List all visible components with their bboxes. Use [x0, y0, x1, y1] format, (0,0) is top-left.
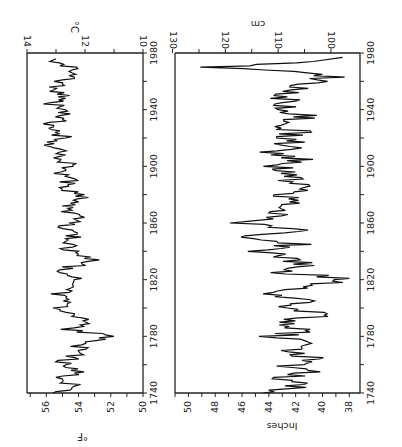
fahrenheit-unit-label: °F	[77, 431, 88, 442]
inches-label: 42	[290, 401, 301, 413]
inches-label: 44	[263, 401, 274, 413]
year-label: 1820	[365, 268, 376, 292]
bottom-chart-ticks	[173, 49, 364, 397]
cm-label: 110	[273, 31, 284, 49]
fahrenheit-label: 50	[137, 401, 148, 413]
year-label: 1860	[365, 211, 376, 235]
celsius-label: 10	[138, 35, 149, 47]
inches-label: 48	[209, 401, 220, 413]
cm-label: 100	[326, 31, 337, 49]
cm-label: 120	[220, 31, 231, 49]
fahrenheit-label: 56	[40, 401, 51, 413]
celsius-label: 14	[22, 35, 33, 47]
bottom-chart-tick-labels: 1740178018201860190019401980384042444648…	[168, 31, 376, 413]
top-chart-tick-labels: 1740178018201860190019401980505254561012…	[22, 35, 159, 413]
inches-unit-label: Inches	[267, 421, 298, 432]
cm-label: 130	[168, 31, 179, 49]
precipitation-chart: 1740178018201860190019401980384042444648…	[168, 19, 376, 432]
year-label: 1860	[148, 211, 159, 235]
year-label: 1820	[148, 268, 159, 292]
year-label: 1980	[365, 41, 376, 65]
inches-label: 46	[236, 401, 247, 413]
year-label: 1780	[148, 324, 159, 348]
year-label: 1780	[365, 324, 376, 348]
celsius-label: 12	[80, 35, 91, 47]
inches-label: 50	[182, 401, 193, 413]
inches-label: 38	[343, 401, 354, 413]
celsius-unit-label: °C	[69, 21, 80, 33]
fahrenheit-label: 54	[73, 401, 84, 413]
year-label: 1940	[365, 98, 376, 122]
inches-label: 40	[316, 401, 327, 413]
chart-figure: 1740178018201860190019401980505254561012…	[0, 0, 402, 447]
fahrenheit-label: 52	[105, 401, 116, 413]
cm-unit-label: cm	[251, 19, 265, 30]
precipitation-series-line	[200, 57, 349, 393]
year-label: 1940	[148, 98, 159, 122]
year-label: 1740	[148, 381, 159, 405]
year-label: 1740	[365, 381, 376, 405]
year-label: 1900	[365, 154, 376, 178]
temperature-chart: 1740178018201860190019401980505254561012…	[22, 21, 159, 442]
temperature-series-line	[43, 59, 114, 393]
top-chart-ticks	[27, 49, 147, 397]
year-label: 1900	[148, 154, 159, 178]
